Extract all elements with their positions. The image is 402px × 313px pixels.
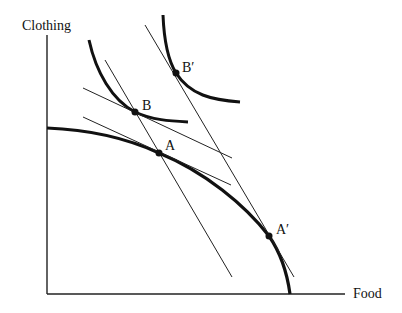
x-axis-label: Food bbox=[353, 286, 382, 301]
point-a-marker bbox=[156, 150, 163, 157]
point-a-label: A bbox=[165, 138, 176, 153]
indifference-curve-low bbox=[89, 40, 188, 122]
point-b-prime-marker bbox=[173, 70, 180, 77]
diagram-canvas: Clothing Food A B A′ B′ bbox=[0, 0, 402, 313]
point-a-prime-marker bbox=[266, 233, 273, 240]
point-b-prime-label: B′ bbox=[182, 60, 194, 75]
price-line-steep-AB bbox=[105, 60, 232, 277]
point-a-prime-label: A′ bbox=[276, 222, 289, 237]
indifference-curve-high bbox=[163, 15, 240, 102]
point-b-marker bbox=[132, 109, 139, 116]
point-b-label: B bbox=[142, 98, 151, 113]
y-axis-label: Clothing bbox=[22, 18, 71, 33]
